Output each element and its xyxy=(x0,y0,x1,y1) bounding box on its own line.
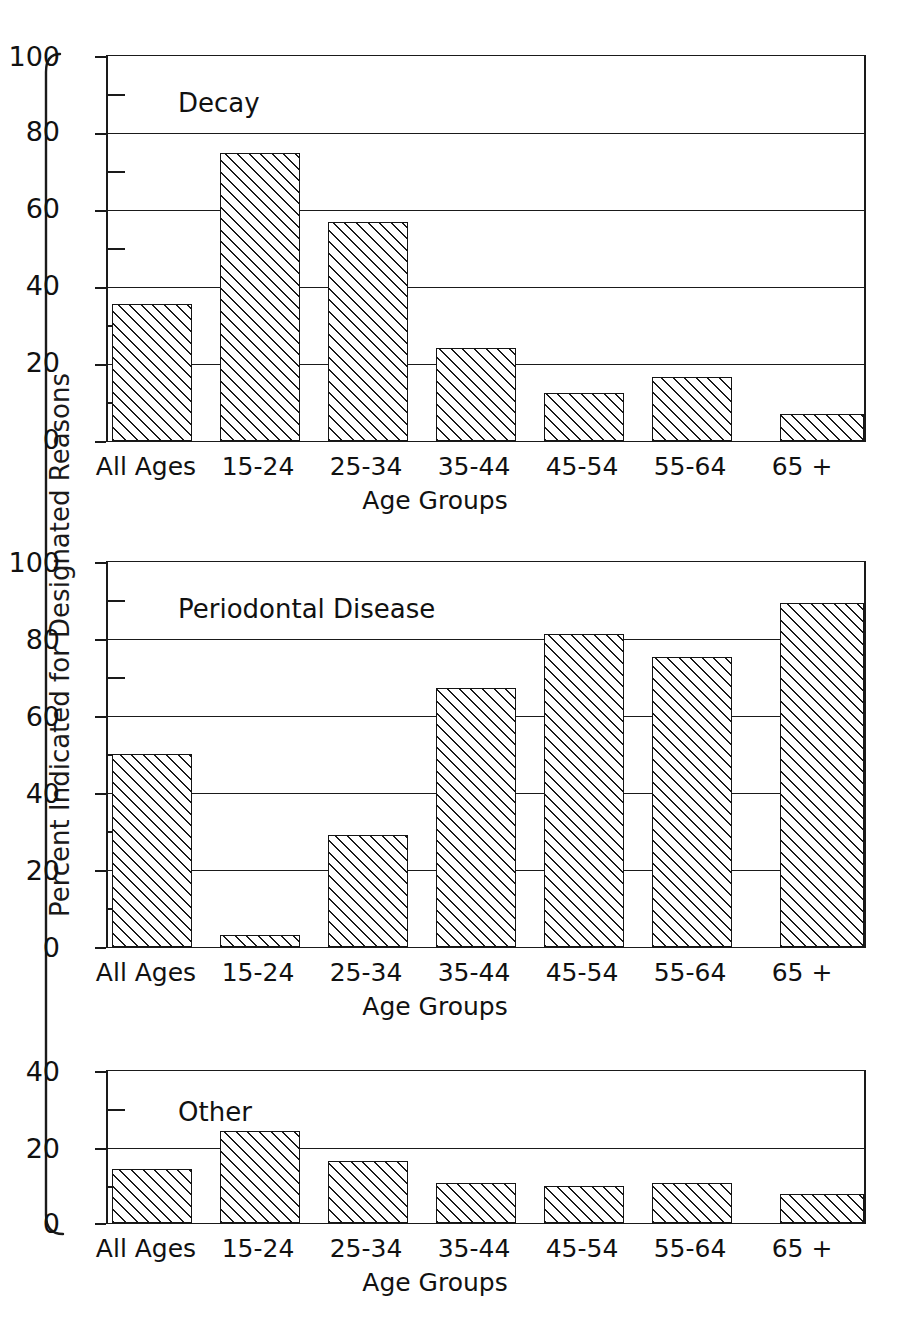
y-tick-label: 0 xyxy=(0,934,60,961)
y-tick-label: 0 xyxy=(0,1210,60,1237)
bar xyxy=(436,348,516,441)
bar xyxy=(328,1161,408,1223)
chart-panel-decay: 100 80 60 40 20 0 xyxy=(0,0,901,520)
y-minor-tick xyxy=(108,248,125,250)
plot-area-decay: Decay xyxy=(106,55,866,442)
bar xyxy=(652,377,732,441)
bar xyxy=(652,657,732,947)
plot-area-periodontal-disease: Periodontal Disease xyxy=(106,561,866,948)
bar xyxy=(780,603,864,947)
y-minor-tick xyxy=(108,600,125,602)
y-tick-label: 20 xyxy=(0,857,60,884)
bar xyxy=(112,1169,192,1223)
y-major-tick xyxy=(95,639,106,641)
y-tick-label: 40 xyxy=(0,272,60,299)
y-tick-label: 100 xyxy=(0,549,60,576)
bar xyxy=(112,304,192,441)
x-axis-title: Age Groups xyxy=(300,1268,570,1297)
y-major-tick xyxy=(95,1148,106,1150)
y-major-tick xyxy=(95,1223,106,1225)
y-tick-label: 40 xyxy=(0,780,60,807)
y-tick-label: 80 xyxy=(0,118,60,145)
y-tick-label: 20 xyxy=(0,1135,60,1162)
y-major-tick xyxy=(95,793,106,795)
bar xyxy=(328,835,408,947)
bar xyxy=(220,1131,300,1223)
bar xyxy=(544,634,624,947)
y-major-tick xyxy=(95,870,106,872)
bar xyxy=(112,754,192,947)
y-major-tick xyxy=(95,1071,106,1073)
y-tick-label: 100 xyxy=(0,43,60,70)
series-label-decay: Decay xyxy=(178,88,260,118)
y-tick-label: 20 xyxy=(0,349,60,376)
y-minor-tick xyxy=(108,677,125,679)
y-minor-tick xyxy=(108,171,125,173)
x-tick-label: 65 + xyxy=(722,958,882,987)
y-minor-tick xyxy=(108,94,125,96)
y-major-tick xyxy=(95,947,106,949)
y-tick-label: 0 xyxy=(0,426,60,453)
chart-panel-other: 40 20 0 Other All Ages 15-24 25-34 35-44… xyxy=(0,1015,901,1320)
y-minor-tick xyxy=(108,1109,125,1111)
chart-panel-periodontal-disease: 100 80 60 40 20 0 Perio xyxy=(0,506,901,1026)
plot-area-other: Other xyxy=(106,1070,866,1224)
y-major-tick xyxy=(95,441,106,443)
bar xyxy=(436,688,516,947)
bar xyxy=(436,1183,516,1223)
bar xyxy=(780,414,864,441)
y-major-tick xyxy=(95,133,106,135)
y-major-tick xyxy=(95,210,106,212)
y-major-tick xyxy=(95,364,106,366)
x-tick-label: 65 + xyxy=(722,1234,882,1263)
bar xyxy=(652,1183,732,1223)
y-tick-label: 40 xyxy=(0,1058,60,1085)
y-tick-label: 60 xyxy=(0,703,60,730)
y-major-tick xyxy=(95,716,106,718)
series-label-other: Other xyxy=(178,1097,252,1127)
bar xyxy=(780,1194,864,1223)
bar xyxy=(328,222,408,441)
y-major-tick xyxy=(95,287,106,289)
y-major-tick xyxy=(95,562,106,564)
bar xyxy=(220,153,300,441)
gridline xyxy=(108,133,864,134)
figure-root: Percent Indicated for Designated Reasons… xyxy=(0,0,901,1320)
y-tick-label: 80 xyxy=(0,626,60,653)
y-tick-label: 60 xyxy=(0,195,60,222)
gridline xyxy=(108,639,864,640)
x-tick-label: 65 + xyxy=(722,452,882,481)
y-major-tick xyxy=(95,56,106,58)
series-label-periodontal-disease: Periodontal Disease xyxy=(178,594,435,624)
bar xyxy=(544,393,624,441)
bar xyxy=(544,1186,624,1223)
bar xyxy=(220,935,300,947)
